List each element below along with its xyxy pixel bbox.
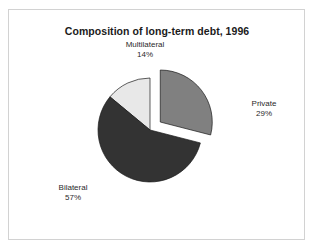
pie-label-bilateral: Bilateral 57% [42, 183, 104, 203]
pie-label-multilateral-value: 14% [105, 50, 185, 60]
pie-label-bilateral-value: 57% [42, 193, 104, 203]
pie-chart [0, 0, 314, 250]
chart-figure: Composition of long-term debt, 1996 Mult… [0, 0, 314, 250]
pie-slice-group [98, 70, 212, 182]
pie-slice-private [160, 70, 212, 135]
pie-label-multilateral-name: Multilateral [105, 40, 185, 50]
pie-label-private-value: 29% [236, 109, 292, 119]
pie-label-bilateral-name: Bilateral [42, 183, 104, 193]
pie-label-private: Private 29% [236, 99, 292, 119]
pie-label-multilateral: Multilateral 14% [105, 40, 185, 60]
pie-label-private-name: Private [236, 99, 292, 109]
